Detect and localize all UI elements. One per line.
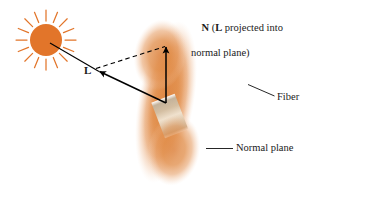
normal-plane-label: Normal plane <box>236 142 293 154</box>
n-symbol: N <box>202 22 210 33</box>
n-vector-label: N (L projected into normal plane) <box>191 10 283 84</box>
diagram-canvas <box>0 0 377 214</box>
n-caption-line2: normal plane) <box>191 47 283 59</box>
l-vector-label: L <box>84 64 91 77</box>
n-caption-tail: projected into <box>222 22 283 33</box>
fiber-normal-plane-diagram: N (L projected into normal plane) L Fibe… <box>0 0 377 214</box>
sun-disc <box>30 24 62 56</box>
fiber-label: Fiber <box>277 91 299 103</box>
sun <box>16 10 76 70</box>
